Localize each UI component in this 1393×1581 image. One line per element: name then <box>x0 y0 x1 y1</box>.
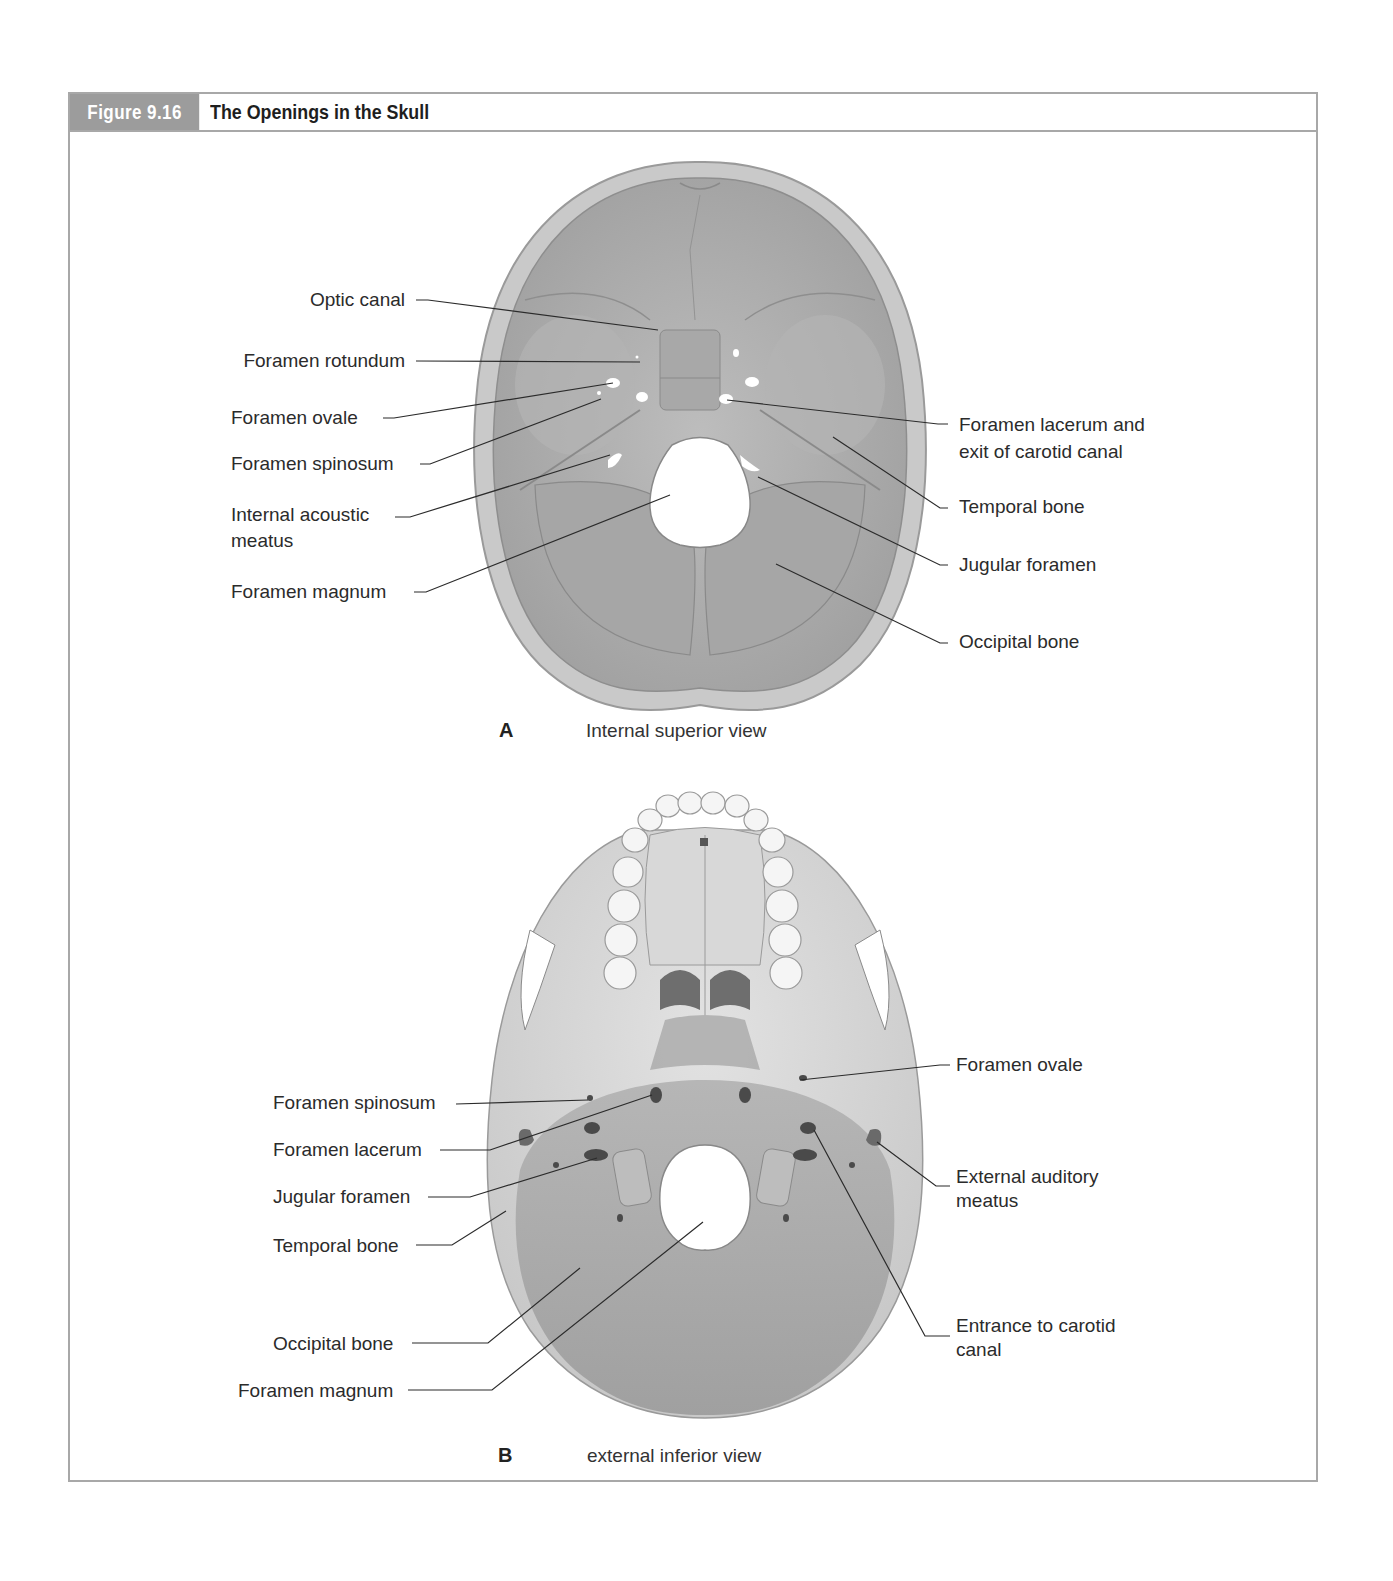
skull-external-inferior-view <box>408 792 950 1418</box>
label-occipital-bone: Occipital bone <box>959 629 1079 655</box>
panel-a-caption: Internal superior view <box>586 720 767 742</box>
label-b-foramen-spinosum: Foramen spinosum <box>273 1090 436 1116</box>
label-foramen-lacerum-line2: exit of carotid canal <box>959 439 1123 465</box>
label-jugular-foramen: Jugular foramen <box>959 552 1096 578</box>
label-temporal-bone: Temporal bone <box>959 494 1085 520</box>
label-foramen-rotundum: Foramen rotundum <box>160 348 405 374</box>
label-b-foramen-magnum: Foramen magnum <box>238 1378 393 1404</box>
label-b-external-auditory-meatus-line2: meatus <box>956 1188 1018 1214</box>
panel-b-caption: external inferior view <box>587 1445 761 1467</box>
label-optic-canal: Optic canal <box>200 287 405 313</box>
label-b-entrance-carotid-canal-line2: canal <box>956 1337 1001 1363</box>
panel-b-letter: B <box>498 1444 512 1467</box>
label-b-foramen-ovale: Foramen ovale <box>956 1052 1083 1078</box>
label-b-external-auditory-meatus-line1: External auditory <box>956 1164 1099 1190</box>
skull-illustrations <box>0 0 1393 1581</box>
label-b-jugular-foramen: Jugular foramen <box>273 1184 410 1210</box>
label-b-temporal-bone: Temporal bone <box>273 1233 399 1259</box>
skull-internal-superior-view <box>383 162 948 710</box>
label-b-foramen-lacerum: Foramen lacerum <box>273 1137 422 1163</box>
label-b-entrance-carotid-canal-line1: Entrance to carotid <box>956 1313 1115 1339</box>
label-foramen-ovale: Foramen ovale <box>231 405 358 431</box>
label-foramen-spinosum: Foramen spinosum <box>231 451 394 477</box>
label-b-occipital-bone: Occipital bone <box>273 1331 393 1357</box>
label-internal-acoustic-meatus-line1: Internal acoustic <box>231 502 369 528</box>
panel-a-letter: A <box>499 719 513 742</box>
label-foramen-magnum: Foramen magnum <box>231 579 386 605</box>
label-foramen-lacerum-line1: Foramen lacerum and <box>959 412 1145 438</box>
label-internal-acoustic-meatus-line2: meatus <box>231 528 293 554</box>
